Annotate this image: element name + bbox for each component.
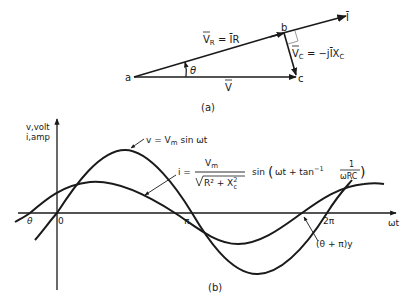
point-c-label: c bbox=[298, 73, 304, 84]
tick-zero: 0 bbox=[58, 216, 64, 226]
i-eq-pointer bbox=[145, 175, 176, 195]
y-axis-label-volt: v,volt bbox=[26, 122, 50, 132]
current-phasor-extension bbox=[283, 16, 346, 33]
theta-label: θ bbox=[190, 65, 196, 76]
caption-a: (a) bbox=[201, 102, 215, 113]
svg-text:(: ( bbox=[268, 164, 273, 180]
svg-text:ωt + tan−1: ωt + tan−1 bbox=[275, 165, 324, 177]
x-axis-label: ωt bbox=[388, 218, 400, 228]
waveform-diagram: v,volt i,amp ωt θ 0 π 2π v = Vm sin ωt i… bbox=[15, 119, 400, 293]
phase-annotation: (θ + π)y bbox=[316, 239, 353, 249]
svg-text:1: 1 bbox=[349, 160, 354, 169]
svg-text:ωRC: ωRC bbox=[340, 172, 358, 181]
right-angle-mark bbox=[288, 31, 298, 44]
rc-circuit-figure: a b c Ī θ VR = ĪR VC = −jĪXC V (a) v,vol… bbox=[0, 0, 410, 305]
vr-label: VR = ĪR bbox=[203, 32, 239, 47]
voltage-equation: v = Vm sin ωt bbox=[146, 135, 208, 147]
svg-text:V: V bbox=[225, 82, 232, 93]
phasor-diagram: a b c Ī θ VR = ĪR VC = −jĪXC V (a) bbox=[125, 11, 349, 113]
svg-text:VC = −jĪXC: VC = −jĪXC bbox=[292, 47, 344, 61]
svg-text:R² + X2c: R² + X2c bbox=[204, 176, 237, 191]
current-equation: i = Vm R² + X2c sin ( ωt + tan−1 1 ωRC ) bbox=[178, 158, 365, 191]
v-label: V bbox=[225, 80, 232, 93]
v-eq-pointer bbox=[131, 139, 144, 148]
current-label: Ī bbox=[346, 11, 349, 23]
svg-text:Vm: Vm bbox=[205, 158, 218, 170]
point-b-label: b bbox=[281, 22, 287, 33]
svg-text:VR = ĪR: VR = ĪR bbox=[203, 33, 239, 47]
vc-label: VC = −jĪXC bbox=[292, 46, 344, 61]
point-a-label: a bbox=[125, 72, 131, 83]
y-axis-label-amp: i,amp bbox=[26, 132, 50, 142]
svg-text:): ) bbox=[360, 164, 365, 180]
caption-b: (b) bbox=[208, 282, 222, 293]
tick-theta: θ bbox=[27, 216, 33, 226]
svg-text:sin: sin bbox=[252, 167, 265, 177]
theta-arc bbox=[185, 62, 186, 77]
vr-arrow bbox=[270, 33, 284, 37]
svg-text:i =: i = bbox=[178, 167, 191, 177]
